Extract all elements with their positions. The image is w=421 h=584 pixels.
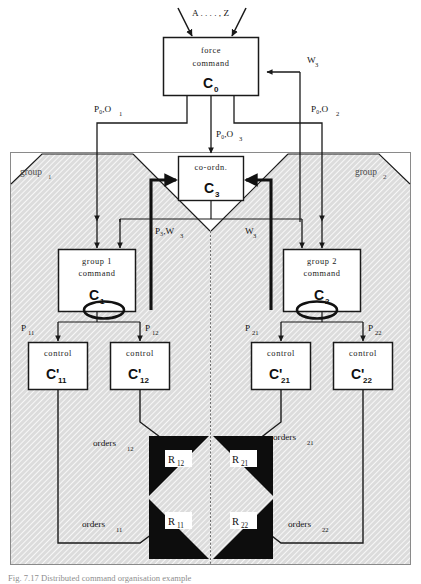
orders11-text: orders	[82, 519, 105, 529]
node-control-22[interactable]: control C' 22	[334, 343, 393, 390]
control-22-line1: control	[349, 349, 377, 358]
control-12-line1: control	[126, 349, 154, 358]
node-control-12[interactable]: control C' 12	[111, 343, 170, 390]
force-command-symbol: C	[203, 75, 213, 91]
r12-subscript: 12	[177, 460, 185, 468]
group1-command-line2: command	[78, 269, 115, 278]
r11-subscript: 11	[177, 522, 184, 530]
r21-symbol: R	[232, 454, 239, 465]
coordination-symbol: C	[204, 180, 214, 196]
node-control-11[interactable]: control C' 11	[29, 343, 88, 390]
coordination-line1: co-ordn.	[195, 163, 228, 172]
r21-subscript: 21	[241, 460, 249, 468]
control-12-subscript: 12	[140, 376, 149, 385]
group-2-label-text: group	[355, 167, 377, 177]
force-command-subscript: 0	[214, 85, 219, 94]
p22-text: P	[368, 323, 373, 333]
external-input-label: A . . . . , Z	[192, 8, 229, 18]
control-22-subscript: 22	[363, 376, 372, 385]
group1-command-symbol: C	[89, 287, 99, 303]
p21-sub: 21	[252, 329, 259, 336]
figure-container: group 1 group 2 A . . . . , Z force comm…	[0, 0, 421, 584]
edge-label-p0o2: P₀,O 2	[311, 104, 339, 117]
control-11-line1: control	[44, 349, 72, 358]
p0o1-text: P₀,O	[94, 104, 112, 114]
p0o3-text: P₀,O	[216, 129, 234, 139]
group2-command-line2: command	[303, 269, 340, 278]
orders22-text: orders	[288, 519, 311, 529]
group2-command-line1: group 2	[307, 257, 337, 266]
r12-symbol: R	[168, 454, 175, 465]
p11-text: P	[21, 323, 26, 333]
orders11-sub: 11	[116, 526, 122, 533]
coordination-subscript: 3	[215, 190, 220, 199]
edge-label-p0o1: P₀,O 1	[94, 104, 122, 117]
p22-sub: 22	[375, 329, 382, 336]
group1-command-line1: group 1	[82, 257, 112, 266]
control-21-line1: control	[267, 349, 295, 358]
orders12-text: orders	[93, 438, 116, 448]
edge-label-p0o3: P₀,O 3	[216, 129, 243, 142]
group-1-label-sub: 1	[48, 173, 52, 181]
p11-sub: 11	[28, 329, 34, 336]
p12-sub: 12	[152, 329, 159, 336]
edge-label-w3-top: W 3	[307, 55, 319, 68]
p3w3-text: P₃,W	[155, 226, 175, 236]
r22-subscript: 22	[241, 522, 249, 530]
orders12-sub: 12	[127, 445, 134, 452]
p0o1-sub: 1	[119, 110, 122, 117]
control-11-subscript: 11	[58, 376, 67, 385]
orders21-sub: 21	[307, 439, 314, 446]
group-1-label-text: group	[20, 167, 42, 177]
force-command-line2: command	[192, 59, 229, 68]
r11-symbol: R	[168, 516, 175, 527]
group-2-label-sub: 2	[383, 173, 387, 181]
node-force-command[interactable]: force command C 0	[164, 38, 259, 96]
w3-top-sub: 3	[315, 61, 319, 68]
control-21-subscript: 21	[281, 376, 290, 385]
node-control-21[interactable]: control C' 21	[252, 343, 311, 390]
r22-symbol: R	[232, 516, 239, 527]
orders22-sub: 22	[322, 526, 329, 533]
p21-text: P	[245, 323, 250, 333]
force-command-line1: force	[201, 46, 221, 55]
node-coordination[interactable]: co-ordn. C 3	[179, 157, 244, 201]
figure-caption: Fig. 7.17 Distributed command organisati…	[8, 573, 418, 584]
p0o2-sub: 2	[336, 110, 339, 117]
p0o3-sub: 3	[239, 135, 243, 142]
orders21-text: orders	[273, 432, 296, 442]
p12-text: P	[145, 323, 150, 333]
distributed-command-organisation-diagram: group 1 group 2 A . . . . , Z force comm…	[0, 0, 421, 584]
p0o2-text: P₀,O	[311, 104, 329, 114]
